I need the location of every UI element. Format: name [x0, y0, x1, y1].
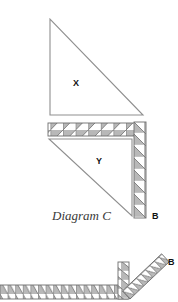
triangle-y-shape: [49, 139, 132, 216]
diagram-canvas: X Y Diagram C B B: [0, 0, 178, 302]
hatched-base-bottom-shape: [0, 285, 128, 299]
triangle-x-label: X: [73, 79, 79, 88]
triangle-x-shape: [50, 19, 143, 115]
diagram-caption: Diagram C: [52, 209, 111, 222]
support-label-b-top: B: [152, 212, 159, 221]
diagram-c-figure: [0, 0, 178, 302]
hatched-beam-top-shape: [48, 123, 136, 136]
support-label-b-bottom: B: [168, 258, 175, 267]
triangle-y-label: Y: [96, 157, 102, 166]
hatched-column-right-shape: [134, 122, 146, 218]
